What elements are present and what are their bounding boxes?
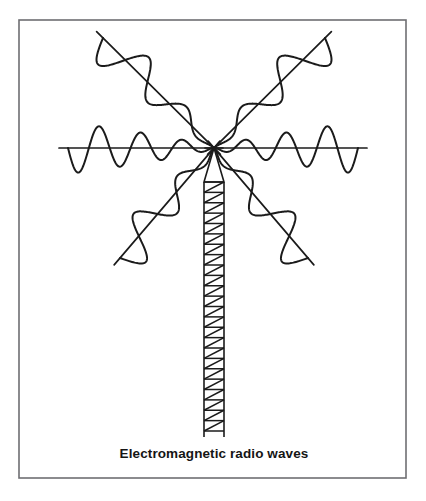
- figure-caption: Electromagnetic radio waves: [120, 446, 309, 461]
- radio-waves-diagram: Electromagnetic radio waves: [0, 0, 426, 501]
- figure-frame: [19, 20, 406, 478]
- figure-container: Electromagnetic radio waves: [0, 0, 426, 501]
